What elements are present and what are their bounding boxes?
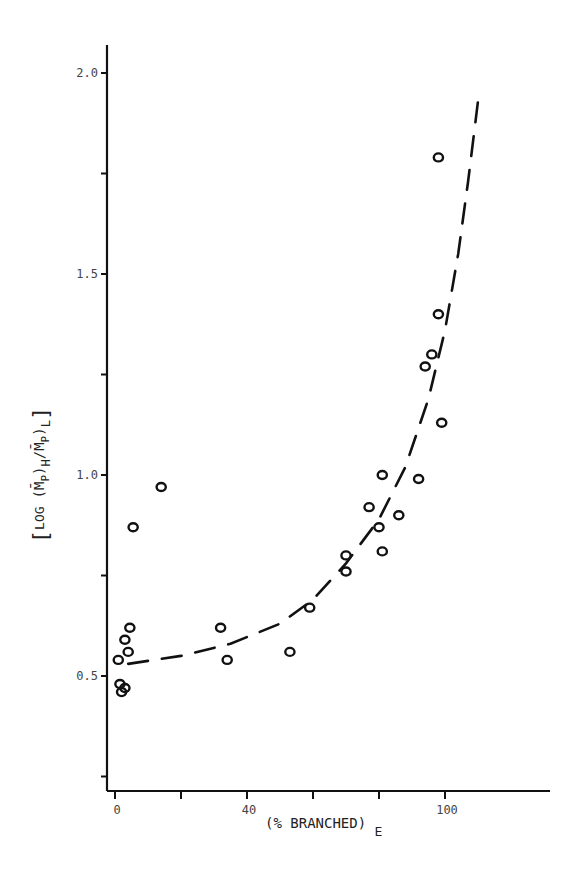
data-point-circle [341,567,350,575]
x-tick-label: 100 [436,803,458,817]
x-tick-label: 40 [242,803,256,817]
y-axis-title: [LOG(M̄P)H/M̄P)L] [28,407,53,543]
data-point-circle [341,551,350,559]
data-point-circle [114,656,123,664]
data-point-circle [157,483,166,491]
dashed-fit-line [128,101,478,664]
fitted-dashed-curve [128,101,478,664]
data-points [114,153,447,696]
data-point-circle [434,153,443,161]
data-point-circle [305,604,314,612]
svg-text:[LOG(M̄P)H/M̄P)L]: [LOG(M̄P)H/M̄P)L] [28,407,53,543]
scatter-chart: 0.51.01.52.0040100 (% BRANCHED) E [LOG(M… [0,0,577,886]
data-point-circle [394,511,403,519]
data-point-circle [365,503,374,511]
y-tick-label: 1.0 [76,468,98,482]
y-tick-label: 0.5 [76,669,98,683]
data-point-circle [120,636,129,644]
data-point-circle [437,419,446,427]
data-point-circle [125,624,134,632]
data-point-circle [378,471,387,479]
data-point-circle [414,475,423,483]
x-tick-label: 0 [113,803,120,817]
y-tick-label: 1.5 [76,267,98,281]
data-point-circle [223,656,232,664]
data-point-circle [421,362,430,370]
data-point-circle [124,648,133,656]
axes: 0.51.01.52.0040100 [76,45,550,817]
x-axis-title: (% BRANCHED) E [265,815,382,839]
data-point-circle [427,350,436,358]
data-point-circle [374,523,383,531]
y-tick-label: 2.0 [76,66,98,80]
data-point-circle [285,648,294,656]
data-point-circle [216,624,225,632]
data-point-circle [378,547,387,555]
data-point-circle [434,310,443,318]
data-point-circle [129,523,138,531]
